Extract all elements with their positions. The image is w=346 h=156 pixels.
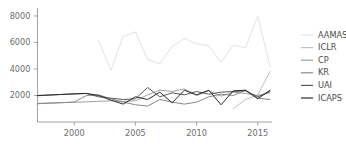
x-tick-label: 2015: [247, 128, 268, 138]
legend-label-kr: KR: [318, 67, 329, 77]
legend-label-iclr: ICLR: [318, 42, 337, 52]
y-tick-label: 2000: [10, 90, 31, 100]
x-tick-label: 2005: [125, 128, 146, 138]
y-axis-ticks: 2000400060008000: [10, 11, 38, 101]
x-axis-ticks: 2000200520102015: [64, 122, 268, 138]
y-tick-label: 8000: [10, 11, 31, 21]
legend-label-aamas: AAMAS: [318, 30, 346, 40]
legend-label-uai: UAI: [318, 80, 332, 90]
chart-legend: AAMASICLRCPKRUAIICAPS: [301, 30, 346, 103]
x-tick-label: 2010: [186, 128, 207, 138]
series-line-aamas: [99, 16, 270, 70]
y-tick-label: 4000: [10, 64, 31, 74]
series-lines: [38, 16, 271, 109]
y-tick-label: 6000: [10, 37, 31, 47]
line-chart-figure: 2000400060008000 2000200520102015 AAMASI…: [0, 0, 346, 156]
legend-label-cp: CP: [318, 55, 329, 65]
legend-label-icaps: ICAPS: [318, 93, 342, 103]
x-tick-label: 2000: [64, 128, 85, 138]
plot-svg: 2000400060008000 2000200520102015 AAMASI…: [0, 0, 346, 156]
